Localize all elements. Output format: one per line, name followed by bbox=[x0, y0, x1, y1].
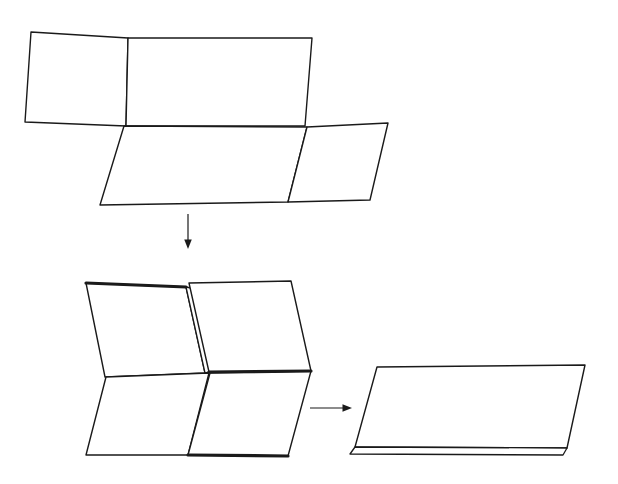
panel-folded-under-sheet-edge bbox=[350, 447, 567, 455]
panel-top-left-panel bbox=[25, 32, 128, 126]
panel-upper-right-panel bbox=[189, 281, 311, 372]
stage-fully-folded-stack bbox=[350, 365, 585, 455]
edge-lower-right-bottom-shadow-edge bbox=[188, 455, 288, 456]
edge-upper-right-bottom-shadow-edge bbox=[209, 371, 311, 372]
folding-diagram-svg bbox=[0, 0, 618, 484]
panel-upper-left-panel bbox=[86, 283, 205, 377]
panel-bottom-left-panel bbox=[100, 126, 307, 205]
stage-half-folded-sheet bbox=[86, 281, 311, 456]
panel-top-right-panel bbox=[126, 38, 312, 126]
panel-folded-top-sheet bbox=[355, 365, 585, 448]
diagram-canvas bbox=[0, 0, 618, 484]
panel-lower-left-panel bbox=[86, 373, 209, 455]
